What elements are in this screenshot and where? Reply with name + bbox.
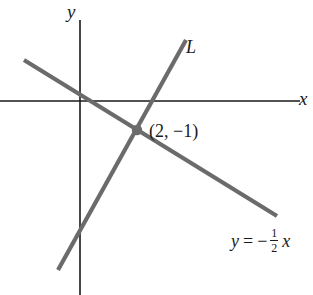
line-L: [58, 40, 186, 270]
equation-variable-x: x: [282, 232, 290, 250]
equation-variable-y: y: [231, 232, 239, 250]
y-axis-label: y: [67, 2, 75, 21]
equation-fraction: 1 2: [270, 227, 278, 254]
equation-equals-sign: =: [243, 232, 253, 250]
intersection-point-dot: [132, 125, 142, 135]
equation-minus-sign: −: [257, 232, 267, 250]
fraction-denominator: 2: [270, 242, 278, 254]
fraction-numerator: 1: [270, 227, 278, 239]
intersection-point-label: (2, −1): [149, 122, 198, 140]
graph-figure: y x L (2, −1) y = − 1 2 x: [0, 0, 313, 295]
line-L-label: L: [186, 38, 196, 56]
x-axis-label: x: [299, 89, 307, 108]
equation-label: y = − 1 2 x: [231, 227, 290, 254]
